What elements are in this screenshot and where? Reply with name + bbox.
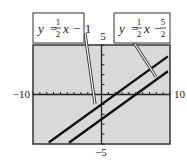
- equation-callout-2: y = 1 2 x − 5 2: [114, 13, 170, 43]
- eq1-const: 1: [85, 21, 92, 36]
- eq2-const-num: 5: [161, 17, 166, 27]
- eq1-op: −: [73, 21, 80, 36]
- chart-figure: y = 1 2 x − 1 y = 1 2 x − 5 2 −10 10 5 −…: [0, 0, 187, 160]
- y-min-label: −5: [95, 146, 107, 158]
- eq1-frac-den: 2: [56, 29, 61, 39]
- eq1-lhs: y: [36, 21, 44, 36]
- y-max-label: 5: [100, 30, 106, 42]
- svg-text:x − 1: x − 1: [62, 21, 91, 36]
- eq2-const-den: 2: [161, 29, 166, 39]
- eq2-frac-den: 2: [137, 29, 142, 39]
- svg-text:y =: y =: [117, 21, 138, 36]
- equation-callout-1: y = 1 2 x − 1: [33, 13, 91, 43]
- eq2-lhs: y: [117, 21, 125, 36]
- svg-text:x −: x −: [143, 21, 161, 36]
- eq1-var: x: [62, 21, 69, 36]
- x-max-label: 10: [174, 88, 186, 100]
- eq2-var: x: [143, 21, 150, 36]
- x-min-label: −10: [13, 88, 31, 100]
- svg-text:y =: y =: [36, 21, 57, 36]
- eq1-frac-num: 1: [56, 17, 61, 27]
- eq2-frac-num: 1: [137, 17, 142, 27]
